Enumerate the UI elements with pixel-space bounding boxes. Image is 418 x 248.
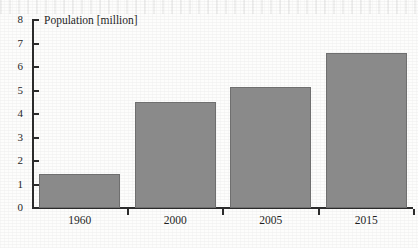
y-axis-tick-label: 3 xyxy=(0,132,23,143)
y-axis-tick-label: 5 xyxy=(0,85,23,96)
y-axis-tick-label: 6 xyxy=(0,61,23,72)
plot-area xyxy=(32,20,414,208)
x-axis-tick-label: 2015 xyxy=(319,214,415,226)
y-axis-tick-label: 0 xyxy=(0,202,23,213)
y-axis-tick-label: 4 xyxy=(0,108,23,119)
bar xyxy=(135,102,216,208)
y-axis-tick-label: 2 xyxy=(0,155,23,166)
scan-artifact-top xyxy=(0,0,418,14)
bar xyxy=(39,174,120,208)
x-axis-tick-label: 2000 xyxy=(128,214,224,226)
y-axis-tick-label: 8 xyxy=(0,14,23,25)
y-axis-tick-label: 7 xyxy=(0,38,23,49)
x-axis-tick-label: 1960 xyxy=(32,214,128,226)
y-axis-tick-label: 1 xyxy=(0,179,23,190)
bar xyxy=(326,53,407,208)
bar xyxy=(230,87,311,208)
bar-chart: Population [million] 012345678 196020002… xyxy=(0,0,418,248)
x-axis-tick-label: 2005 xyxy=(223,214,319,226)
